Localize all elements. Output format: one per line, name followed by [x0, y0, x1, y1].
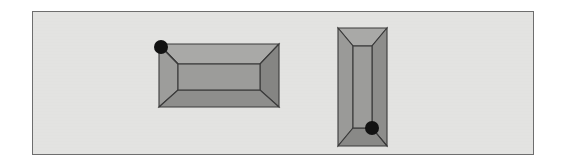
- paper-texture-overlay: [33, 12, 533, 154]
- horizontal-box-shape[interactable]: [158, 43, 282, 110]
- figure-panel: [32, 11, 534, 155]
- vertical-box-bevel-left: [338, 28, 353, 146]
- vertical-box-inner-face: [353, 46, 372, 128]
- horizontal-box-corner-marker[interactable]: [154, 40, 168, 54]
- vertical-box-corner-marker[interactable]: [365, 121, 379, 135]
- horizontal-box-bevel-top: [159, 44, 279, 64]
- horizontal-box-bevel-bottom: [159, 90, 279, 107]
- horizontal-box-inner-face: [178, 64, 260, 90]
- vertical-box-shape[interactable]: [337, 27, 391, 153]
- figure-stage: [0, 0, 565, 167]
